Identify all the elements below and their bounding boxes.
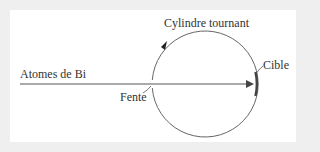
- target-label: Cible: [263, 59, 289, 71]
- target-arc: [256, 72, 257, 96]
- slit-label: Fente: [120, 91, 147, 103]
- atoms-label: Atomes de Bi: [20, 68, 86, 80]
- cylinder-label: Cylindre tournant: [164, 17, 249, 29]
- beam-arrowhead-icon: [246, 80, 254, 88]
